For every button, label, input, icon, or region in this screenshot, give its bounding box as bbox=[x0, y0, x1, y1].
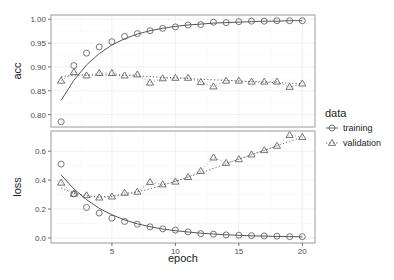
y-tick-label: 1.00 bbox=[30, 15, 46, 24]
legend-item-training: training bbox=[326, 123, 373, 133]
legend-item-validation: validation bbox=[326, 138, 381, 148]
x-tick-label: 5 bbox=[110, 247, 115, 256]
legend-label-training: training bbox=[343, 123, 373, 133]
y-tick-label: 0.6 bbox=[35, 147, 47, 156]
loss-panel: 0.00.20.40.6 bbox=[35, 131, 315, 243]
y-axis-title-acc: acc bbox=[11, 62, 23, 80]
legend-label-validation: validation bbox=[343, 138, 381, 148]
y-tick-label: 0.95 bbox=[30, 39, 46, 48]
legend: data training validation bbox=[325, 107, 381, 148]
circle-marker-icon bbox=[326, 125, 338, 131]
x-tick-label: 15 bbox=[234, 247, 243, 256]
y-axis-title-loss: loss bbox=[11, 177, 23, 197]
acc-panel: 0.800.850.900.951.00 bbox=[30, 15, 315, 127]
y-tick-label: 0.85 bbox=[30, 87, 46, 96]
y-tick-label: 0.80 bbox=[30, 111, 46, 120]
x-tick-label: 20 bbox=[298, 247, 307, 256]
y-tick-label: 0.4 bbox=[35, 176, 47, 185]
x-axis: 5101520 bbox=[110, 243, 308, 256]
chart: 0.800.850.900.951.00 0.00.20.40.6 510152… bbox=[0, 0, 394, 280]
y-tick-label: 0.90 bbox=[30, 63, 46, 72]
triangle-marker-icon bbox=[326, 139, 338, 145]
y-tick-label: 0.0 bbox=[35, 234, 47, 243]
x-axis-title: epoch bbox=[168, 252, 198, 264]
y-tick-label: 0.2 bbox=[35, 205, 47, 214]
triangle-marker-icon bbox=[328, 139, 335, 145]
legend-title: data bbox=[325, 107, 347, 119]
